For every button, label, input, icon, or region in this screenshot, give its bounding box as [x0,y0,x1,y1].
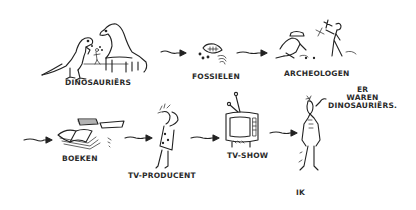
arrow-archaeologists-to-books [24,137,52,143]
archaeologists-icon [276,20,356,59]
label-me: IK [296,189,305,197]
arrow-fossils-to-archaeologists [237,50,267,56]
fossil-icon [199,44,226,64]
arrow-books-to-tv-producer [125,135,152,141]
books-icon [58,119,124,149]
speech-text: ER WAREN DINOSAURIËRS. [328,86,397,110]
label-tv-producer: TV-PRODUCENT [128,172,196,180]
label-dinosaurs: DINOSAURIËRS [65,79,131,87]
tv-producer-icon [156,104,178,168]
person-icon [299,96,326,170]
television-icon [226,92,258,147]
arrow-dinosaurs-to-fossils [161,50,186,56]
label-archaeologists: ARCHEOLOGEN [284,70,350,78]
dinosaurs-icon [42,24,147,80]
speech-line-3: DINOSAURIËRS. [328,102,397,110]
label-tv-show: TV-SHOW [227,152,268,160]
label-fossils: FOSSIELEN [192,73,240,81]
label-books: BOEKEN [62,155,98,163]
diagram-canvas: DINOSAURIËRS FOSSIELEN ARCHEOLOGEN BOEKE… [0,0,416,210]
arrow-tv-producer-to-tv-show [191,135,219,141]
arrow-tv-show-to-me [270,130,297,136]
